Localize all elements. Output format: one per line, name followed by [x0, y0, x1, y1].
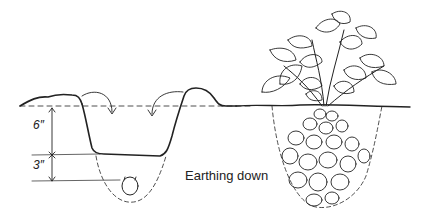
measurement-3-inch: 3″ — [33, 158, 44, 172]
trench-outline — [82, 88, 236, 156]
measure-3in-line — [32, 180, 120, 181]
tubers — [282, 109, 370, 206]
measurement-6-inch: 6″ — [33, 118, 44, 132]
tuber-bowl — [272, 106, 382, 208]
plant-ground-line — [236, 105, 410, 107]
illustration — [0, 0, 430, 216]
caption-earthing-down: Earthing down — [185, 168, 268, 183]
earthing-down-diagram: 6″ 3″ Earthing down — [0, 0, 430, 216]
left-mound — [20, 94, 82, 106]
trench-panel — [20, 88, 250, 202]
foliage — [262, 11, 396, 101]
arrow-left — [82, 92, 112, 112]
measure-6in-line — [32, 154, 100, 155]
arrow-right — [152, 92, 183, 114]
